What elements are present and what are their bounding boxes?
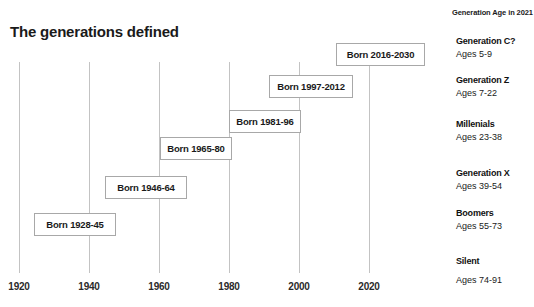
gridline-1940 bbox=[89, 62, 90, 273]
x-tick-2020: 2020 bbox=[358, 281, 379, 292]
legend-ages-generation-z: Ages 7-22 bbox=[456, 88, 534, 98]
gridline-1980 bbox=[229, 62, 230, 273]
x-tick-1920: 1920 bbox=[8, 281, 29, 292]
legend-item-generation-x: Generation X Ages 39-54 bbox=[456, 168, 534, 191]
x-tick-2000: 2000 bbox=[288, 281, 309, 292]
generations-timeline-chart: The generations defined Born 1928-45 Bor… bbox=[0, 0, 440, 307]
legend-name-generation-x: Generation X bbox=[456, 168, 534, 178]
legend-ages-millenials: Ages 23-38 bbox=[456, 132, 534, 142]
x-tick-1980: 1980 bbox=[218, 281, 239, 292]
generation-box-boomers[interactable]: Born 1946-64 bbox=[105, 176, 187, 199]
generation-box-generation-x[interactable]: Born 1965-80 bbox=[160, 137, 232, 160]
legend-name-silent: Silent bbox=[456, 256, 534, 266]
legend-item-generation-z: Generation Z Ages 7-22 bbox=[456, 75, 534, 98]
legend-header: Generation Age in 2021 bbox=[452, 8, 533, 17]
generation-age-legend: Generation Age in 2021 Generation C? Age… bbox=[449, 0, 534, 307]
plot-area: Born 1928-45 Born 1946-64 Born 1965-80 B… bbox=[0, 0, 440, 307]
generation-box-generation-c[interactable]: Born 2016-2030 bbox=[336, 43, 425, 66]
generation-box-silent[interactable]: Born 1928-45 bbox=[34, 213, 116, 236]
legend-item-millenials: Millenials Ages 23-38 bbox=[456, 119, 534, 142]
legend-ages-generation-c: Ages 5-9 bbox=[456, 49, 534, 59]
legend-item-generation-c: Generation C? Ages 5-9 bbox=[456, 36, 534, 59]
x-tick-1940: 1940 bbox=[78, 281, 99, 292]
legend-name-millenials: Millenials bbox=[456, 119, 534, 129]
legend-item-boomers: Boomers Ages 55-73 bbox=[456, 208, 534, 231]
gridline-2020 bbox=[369, 62, 370, 273]
legend-name-boomers: Boomers bbox=[456, 208, 534, 218]
legend-name-generation-c: Generation C? bbox=[456, 36, 534, 46]
generation-box-generation-z[interactable]: Born 1997-2012 bbox=[269, 75, 353, 98]
x-tick-1960: 1960 bbox=[148, 281, 169, 292]
gridline-1960 bbox=[159, 62, 160, 273]
legend-ages-boomers: Ages 55-73 bbox=[456, 221, 534, 231]
legend-ages-silent: Ages 74-91 bbox=[456, 275, 534, 285]
legend-item-silent: Silent Ages 74-91 bbox=[456, 256, 534, 285]
generation-box-millenials[interactable]: Born 1981-96 bbox=[229, 110, 301, 133]
legend-ages-generation-x: Ages 39-54 bbox=[456, 181, 534, 191]
legend-name-generation-z: Generation Z bbox=[456, 75, 534, 85]
gridline-1920 bbox=[19, 62, 20, 273]
